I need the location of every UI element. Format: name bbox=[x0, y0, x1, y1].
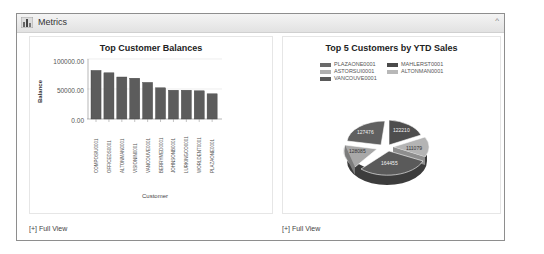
bar[interactable] bbox=[194, 91, 204, 119]
svg-text:127476: 127476 bbox=[357, 129, 374, 135]
x-tick-label: OFFICEDS0001 bbox=[107, 140, 112, 173]
legend-item: PLAZAONE0001 bbox=[320, 61, 376, 67]
svg-text:111079: 111079 bbox=[406, 145, 422, 151]
legend-item: VANCOUVE0001 bbox=[320, 75, 377, 81]
full-view-link-balances[interactable]: [+] Full View bbox=[29, 225, 67, 232]
metrics-panel: Metrics ^ Top Customer Balances 100000.0… bbox=[16, 13, 505, 241]
bar[interactable] bbox=[181, 90, 191, 119]
y-axis-label: Balance bbox=[37, 80, 43, 103]
chart-icon bbox=[21, 17, 33, 28]
bar[interactable] bbox=[168, 90, 178, 119]
svg-text:164455: 164455 bbox=[381, 160, 398, 166]
x-tick-label: ALTONMAN0001 bbox=[120, 138, 125, 173]
legend-item: ALTONMAN0001 bbox=[387, 68, 443, 74]
bar[interactable] bbox=[143, 82, 153, 119]
legend-swatch bbox=[387, 70, 398, 74]
x-tick-label: JOHNSONB0001 bbox=[171, 138, 176, 173]
bar[interactable] bbox=[117, 77, 127, 119]
y-tick-100000: 100000.00 bbox=[44, 58, 84, 65]
bar[interactable] bbox=[207, 94, 217, 119]
full-view-link-sales[interactable]: [+] Full View bbox=[282, 225, 320, 232]
x-tick-label: BERRYMED0001 bbox=[159, 138, 164, 173]
x-tick-label: LURKINGCO0001 bbox=[184, 136, 189, 173]
legend-swatch bbox=[320, 70, 331, 74]
svg-text:128085: 128085 bbox=[349, 148, 366, 154]
pie-chart-title: Top 5 Customers by YTD Sales bbox=[283, 43, 500, 53]
x-tick-label: PLAZAONE0001 bbox=[210, 139, 215, 173]
panel-title: Metrics bbox=[38, 17, 67, 27]
x-tick-label: VANCOUVE0001 bbox=[146, 138, 151, 173]
collapse-icon[interactable]: ^ bbox=[495, 16, 499, 25]
x-tick-label: COMPOSIU0001 bbox=[94, 138, 99, 173]
x-tick-label: VISIONIN0001 bbox=[133, 143, 138, 173]
bar[interactable] bbox=[156, 88, 166, 119]
top-customer-balances-card: Top Customer Balances 100000.00 50000.00… bbox=[29, 36, 273, 214]
bar[interactable] bbox=[104, 73, 114, 119]
y-tick-50000: 50000.00 bbox=[44, 87, 84, 94]
legend-item: ASTORSUI0001 bbox=[320, 68, 374, 74]
bar-chart bbox=[87, 55, 222, 127]
pie-chart: 122210 111079 164455 128085 127476 bbox=[333, 105, 443, 195]
top-5-customers-card: Top 5 Customers by YTD Sales PLAZAONE000… bbox=[282, 36, 501, 214]
x-tick-label: WORLDENT0001 bbox=[197, 137, 202, 173]
svg-text:122210: 122210 bbox=[393, 127, 410, 133]
panel-header: Metrics ^ bbox=[17, 14, 504, 33]
y-tick-0: 0.00 bbox=[44, 117, 84, 124]
bar[interactable] bbox=[91, 70, 101, 119]
bar-chart-title: Top Customer Balances bbox=[30, 43, 272, 53]
legend-swatch bbox=[320, 63, 331, 67]
legend-item: MAHLERST0001 bbox=[387, 61, 443, 67]
legend-swatch bbox=[387, 63, 398, 67]
legend-swatch bbox=[320, 77, 331, 81]
bar[interactable] bbox=[130, 78, 140, 119]
x-axis-label: Customer bbox=[142, 193, 168, 199]
